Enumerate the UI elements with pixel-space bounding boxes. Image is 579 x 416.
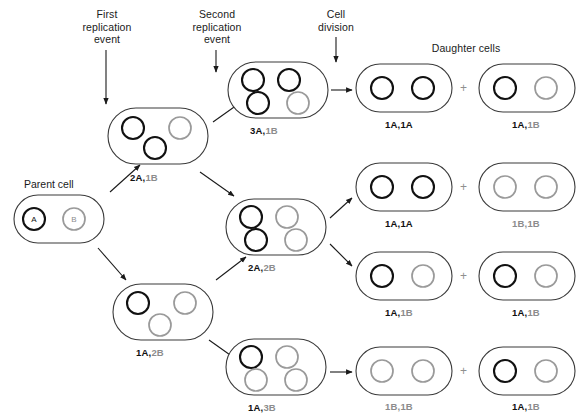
label-part-b: 1B (527, 401, 540, 412)
figure-canvas: AB First replication eventSecond replica… (0, 0, 579, 416)
cell-3A-1B[interactable] (228, 62, 328, 118)
label-cell-1A-3B: 1A,3B (248, 402, 276, 413)
cell-outline (226, 339, 326, 395)
label-part-a: 3A, (250, 125, 265, 136)
arrow-2a2b-division-up (330, 198, 352, 218)
label-daughter-cell-1A-1A-top: 1A,1A (385, 119, 413, 130)
daughter-cell-1A-1B-third-right[interactable] (479, 252, 575, 300)
plus-1: + (460, 82, 467, 94)
label-part-b: 1B,1B (512, 218, 540, 229)
header-second-replication-event: Second replication event (186, 8, 248, 46)
label-daughter-cell-1A-1B-top: 1A,1B (512, 119, 540, 130)
label-part-b: 1B,1B (385, 401, 413, 412)
plus-3: + (460, 270, 467, 282)
label-daughter-cell-1A-1A-second: 1A,1A (385, 218, 413, 229)
daughter-cell-1A-1B-third[interactable] (356, 252, 452, 300)
arrow-2a1b-to-2a2b (200, 172, 234, 196)
cell-outline (108, 108, 208, 164)
label-part-a: 1A,1A (385, 218, 413, 229)
arrow-parent-to-1a2b (98, 248, 126, 280)
daughter-cell-1B-1B-fourth[interactable] (356, 347, 452, 395)
header-first-replication-event: First replication event (76, 8, 138, 46)
label-cell-1A-2B: 1A,2B (136, 347, 164, 358)
label-part-a: 1A, (512, 401, 527, 412)
label-part-a: 1A, (248, 402, 263, 413)
label-part-a: 1A, (385, 307, 400, 318)
plus-4: + (460, 365, 467, 377)
label-daughter-cell-1A-1B-third-right: 1A,1B (512, 307, 540, 318)
cell-outline (228, 62, 328, 118)
daughter-cell-1A-1A-second[interactable] (356, 163, 452, 211)
plasmid-letter-a: A (31, 215, 37, 224)
label-part-b: 2B (151, 347, 164, 358)
cell-outline (226, 199, 326, 255)
header-cell-division: Cell division (310, 8, 362, 33)
arrow-1a2b-to-2a2b (216, 257, 246, 280)
label-part-b: 1B (527, 307, 540, 318)
label-daughter-cell-1B-1B-second: 1B,1B (512, 218, 540, 229)
label-part-a: 1A, (136, 347, 151, 358)
label-part-b: 3B (263, 402, 276, 413)
label-part-a: 1A, (512, 307, 527, 318)
plus-2: + (460, 181, 467, 193)
label-part-a: 1A,1A (385, 119, 413, 130)
label-part-b: 1B (265, 125, 278, 136)
label-cell-2A-1B: 2A,1B (130, 172, 158, 183)
daughter-cell-1A-1B-fourth[interactable] (479, 347, 575, 395)
cell-1A-3B[interactable] (226, 339, 326, 395)
label-part-b: 1B (527, 119, 540, 130)
daughter-cell-1B-1B-second[interactable] (479, 163, 575, 211)
label-part-a: 2A, (248, 262, 263, 273)
label-daughter-cell-1A-1B-fourth: 1A,1B (512, 401, 540, 412)
label-daughter-cell-1B-1B-fourth: 1B,1B (385, 401, 413, 412)
cell-outline (113, 284, 213, 340)
plasmid-letter-b: B (71, 215, 76, 224)
daughter-cell-1A-1B-top[interactable] (479, 64, 575, 112)
label-part-b: 1B (400, 307, 413, 318)
arrow-2a2b-division-down (330, 244, 352, 266)
label-part-a: 2A, (130, 172, 145, 183)
diagram-artwork: AB (0, 0, 579, 416)
cell-2A-1B[interactable] (108, 108, 208, 164)
cell-1A-2B[interactable] (113, 284, 213, 340)
cell-outline (14, 195, 104, 243)
label-part-a: 1A, (512, 119, 527, 130)
header-daughter-cells: Daughter cells (416, 42, 516, 55)
cells-group: AB (14, 62, 575, 395)
label-part-b: 1B (145, 172, 158, 183)
parent-cell[interactable]: AB (14, 195, 104, 243)
label-part-b: 2B (263, 262, 276, 273)
daughter-cell-1A-1A-top[interactable] (356, 64, 452, 112)
label-cell-3A-1B: 3A,1B (250, 125, 278, 136)
cell-2A-2B[interactable] (226, 199, 326, 255)
label-cell-2A-2B: 2A,2B (248, 262, 276, 273)
parent-cell-caption: Parent cell (24, 178, 74, 190)
label-daughter-cell-1A-1B-third: 1A,1B (385, 307, 413, 318)
